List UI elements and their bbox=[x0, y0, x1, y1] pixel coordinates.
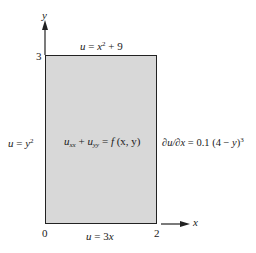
origin-label: 0 bbox=[42, 228, 48, 239]
right-boundary-condition: ∂u/∂x = 0.1 (4 − y)3 bbox=[162, 138, 244, 149]
pde-equation: uxx + uyy = f (x, y) bbox=[64, 136, 141, 147]
y-tick-3: 3 bbox=[36, 51, 42, 62]
y-axis-label: y bbox=[42, 10, 47, 21]
y-axis-arrow-icon bbox=[42, 20, 48, 30]
x-tick-2: 2 bbox=[154, 228, 160, 239]
x-axis-label: x bbox=[193, 217, 198, 228]
top-boundary-condition: u = x2 + 9 bbox=[80, 41, 123, 52]
left-boundary-condition: u = y2 bbox=[8, 138, 34, 149]
x-axis-arrow-icon bbox=[180, 221, 190, 227]
bottom-boundary-condition: u = 3x bbox=[86, 231, 114, 242]
